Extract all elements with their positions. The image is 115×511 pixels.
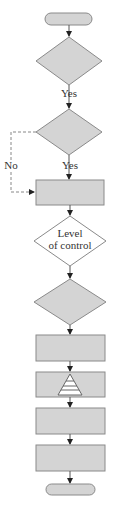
process-box-3 (36, 408, 105, 434)
decision-diamond-2 (36, 109, 102, 155)
yes-label-1: Yes (56, 88, 82, 99)
decision-diamond-3 (34, 279, 106, 325)
level-label-line2: of control (42, 240, 98, 251)
flowchart (0, 0, 115, 511)
yes-label-2: Yes (57, 160, 83, 171)
end-terminator (46, 484, 95, 495)
process-box-1 (36, 180, 104, 205)
process-box-4 (36, 445, 105, 471)
level-label-line1: Level (45, 228, 95, 239)
no-label: No (3, 160, 19, 171)
start-terminator (45, 13, 92, 25)
process-box-2 (36, 335, 105, 361)
decision-diamond-1 (36, 37, 102, 85)
